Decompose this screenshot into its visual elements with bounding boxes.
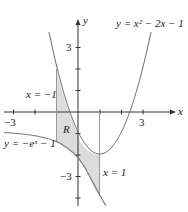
graph: y x 3 −3 −3 3 y = x² − 2x − 1 y = −eˣ − … <box>0 0 188 212</box>
line-x-neg1-label: x = −1 <box>25 88 57 100</box>
x-axis-label: x <box>177 105 183 117</box>
y-axis-arrow-icon <box>76 19 81 25</box>
tick-label-yneg3: −3 <box>60 170 72 182</box>
y-axis-label: y <box>82 14 88 26</box>
x-axis-arrow-icon <box>170 110 176 115</box>
exp-curve-label: y = −eˣ − 1 <box>3 137 56 149</box>
tick-label-x3: 3 <box>139 116 145 128</box>
tick-label-y3: 3 <box>66 41 72 53</box>
region-r-label: R <box>62 123 70 135</box>
tick-label-xneg3: −3 <box>4 116 16 128</box>
parabola-label: y = x² − 2x − 1 <box>115 17 184 29</box>
line-x-1-label: x = 1 <box>102 166 126 178</box>
